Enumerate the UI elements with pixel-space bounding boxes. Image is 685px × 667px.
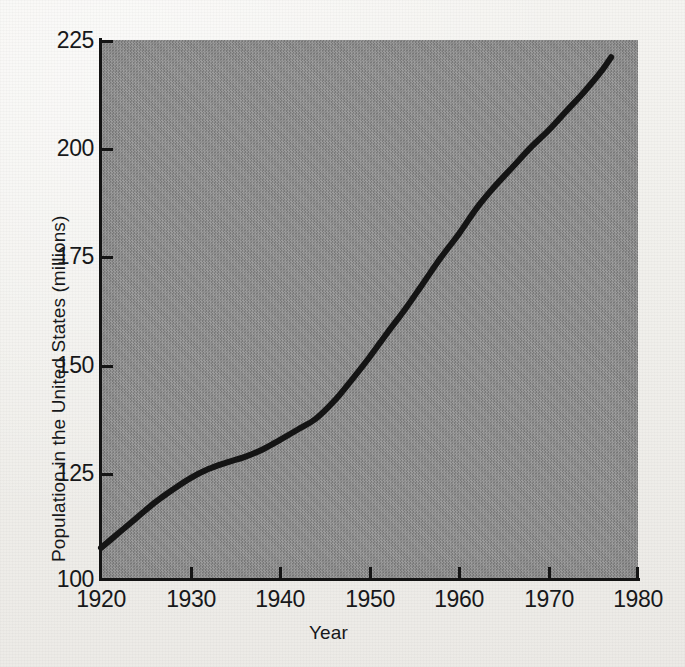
y-tick-mark-150 — [102, 365, 113, 368]
x-tick-label-1960: 1960 — [419, 586, 499, 613]
y-tick-label-225: 225 — [38, 27, 94, 54]
x-tick-label-1940: 1940 — [240, 586, 320, 613]
x-tick-label-1980: 1980 — [598, 586, 678, 613]
y-tick-mark-100 — [102, 578, 113, 581]
y-tick-mark-200 — [102, 148, 113, 151]
y-axis-line — [99, 38, 102, 581]
x-tick-label-1930: 1930 — [151, 586, 231, 613]
y-tick-mark-125 — [102, 473, 113, 476]
x-tick-mark-1960 — [458, 567, 461, 579]
y-tick-mark-225 — [102, 40, 113, 43]
x-tick-mark-1940 — [279, 567, 282, 579]
y-axis-title: Population in the United States (million… — [48, 216, 70, 562]
x-tick-mark-1970 — [548, 567, 551, 579]
x-tick-label-1970: 1970 — [509, 586, 589, 613]
plot-area-background — [101, 40, 638, 578]
x-axis-title-text: Year — [309, 622, 348, 643]
y-tick-mark-175 — [102, 256, 113, 259]
x-tick-mark-1980 — [636, 567, 639, 579]
x-tick-label-1950: 1950 — [330, 586, 410, 613]
x-tick-label-1920: 1920 — [61, 586, 141, 613]
x-tick-mark-1930 — [190, 567, 193, 579]
x-axis-title: Year — [0, 622, 685, 644]
x-tick-mark-1950 — [369, 567, 372, 579]
figure-root: 100 125 150 175 200 225 1920 1930 1940 1… — [0, 0, 685, 667]
y-tick-label-200: 200 — [38, 135, 94, 162]
